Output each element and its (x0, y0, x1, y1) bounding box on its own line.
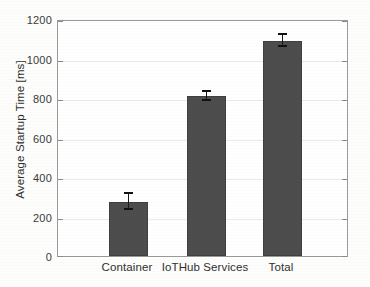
y-tick-mark (342, 61, 347, 62)
y-tick-mark (342, 179, 347, 180)
y-tick-mark (58, 179, 63, 180)
bar-total[interactable] (263, 41, 302, 256)
bar-iothub-services[interactable] (187, 96, 226, 256)
y-tick-label: 800 (20, 93, 52, 105)
figure-canvas: Average Startup Time [ms] 1200 1000 800 … (0, 0, 370, 287)
y-tick-mark (342, 140, 347, 141)
y-tick-label: 200 (20, 212, 52, 224)
y-tick-label: 1000 (20, 54, 52, 66)
error-cap-lower-iothub-services (202, 99, 211, 101)
y-tick-mark (58, 256, 63, 257)
y-tick-mark (58, 21, 63, 22)
plot-area (57, 20, 348, 257)
y-tick-mark (342, 219, 347, 220)
error-cap-upper-total (278, 33, 287, 35)
y-tick-mark (342, 100, 347, 101)
y-tick-mark (58, 219, 63, 220)
y-tick-label: 600 (20, 133, 52, 145)
bar-container[interactable] (109, 202, 148, 256)
gridline-1000 (58, 61, 347, 62)
error-cap-lower-container (124, 208, 133, 210)
y-tick-label: 400 (20, 172, 52, 184)
y-tick-label: 0 (20, 251, 52, 263)
y-tick-mark (58, 140, 63, 141)
x-tick-label-total: Total (231, 261, 331, 273)
y-tick-mark (58, 100, 63, 101)
error-cap-upper-container (124, 192, 133, 194)
y-tick-mark (342, 256, 347, 257)
y-tick-mark (342, 21, 347, 22)
y-tick-mark (58, 61, 63, 62)
error-cap-upper-iothub-services (202, 90, 211, 92)
y-tick-label: 1200 (20, 14, 52, 26)
error-cap-lower-total (278, 45, 287, 47)
